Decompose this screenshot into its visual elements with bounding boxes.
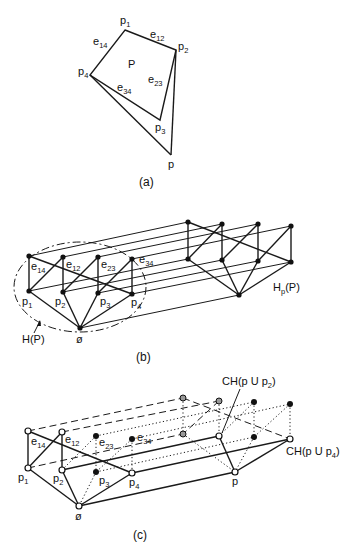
translation-lines-c	[28, 398, 290, 506]
node-label-e23: e23	[101, 258, 115, 273]
panel-c: e14 e12 e23 e34 p1 p2 p3 p4 ø p CH(p U p…	[18, 375, 340, 542]
vertex-label-p4: p4	[78, 65, 88, 80]
vertex-label-p3: p3	[155, 121, 165, 136]
panel-b: e14 e12 e23 e34 p1 p2 p3 p4 ø H(P) Hp(P)…	[14, 219, 300, 364]
hasse-right-c	[180, 395, 293, 475]
edge-label-e23: e23	[148, 73, 162, 88]
node-label-p2: p2	[55, 295, 65, 310]
vertex-label-p2: p2	[178, 40, 188, 55]
polygon-label-P: P	[128, 58, 135, 70]
panel-a: p1 p2 p3 p4 p e12 e23 e34 e14 P (a)	[78, 14, 188, 189]
node-label-e12-c: e12	[65, 433, 79, 448]
node-label-p2-c: p2	[53, 472, 63, 487]
leader-ch-p-p2	[222, 389, 240, 433]
vertex-label-p1: p1	[120, 14, 130, 29]
node-label-p4: p4	[131, 296, 141, 311]
caption-a: (a)	[139, 175, 154, 189]
figure: p1 p2 p3 p4 p e12 e23 e34 e14 P (a)	[0, 0, 353, 547]
label-HP: H(P)	[22, 333, 45, 345]
vertex-label-p: p	[168, 158, 174, 170]
apex-label-p: p	[232, 475, 238, 487]
annotation-ch-p-p2: CH(p U p2)	[222, 375, 276, 390]
empty-set-label-c: ø	[75, 510, 82, 522]
translation-lines	[29, 222, 291, 328]
node-label-e23-c: e23	[99, 436, 113, 451]
arrow-head-icon	[37, 320, 41, 326]
node-label-p3-c: p3	[99, 474, 109, 489]
label-HpP: Hp(P)	[273, 281, 300, 296]
annotation-ch-p-p4: CH(p U p4)	[286, 445, 340, 460]
caption-c: (c)	[133, 528, 147, 542]
hasse-left	[26, 253, 134, 330]
node-label-p4-c: p4	[129, 476, 139, 491]
node-label-p1: p1	[22, 295, 32, 310]
node-label-e14: e14	[31, 260, 45, 275]
caption-b: (b)	[136, 350, 151, 364]
node-label-p3: p3	[100, 295, 110, 310]
node-label-p1-c: p1	[18, 471, 28, 486]
empty-set-label: ø	[76, 333, 83, 345]
edge-label-e14: e14	[93, 35, 107, 50]
